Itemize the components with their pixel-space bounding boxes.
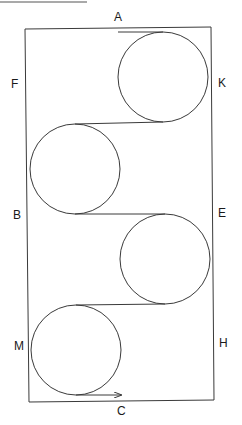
label-k: K: [218, 77, 226, 89]
label-b: B: [13, 209, 21, 221]
pulley-2: [30, 124, 120, 214]
diagram-canvas: [0, 0, 242, 425]
pulley-3: [120, 214, 210, 304]
label-h: H: [219, 337, 228, 349]
pulley-4: [31, 305, 121, 395]
label-e: E: [218, 207, 226, 219]
label-f: F: [11, 78, 18, 90]
label-a: A: [114, 11, 122, 23]
belt-segment-1-2: [75, 122, 163, 124]
pulley-1: [118, 32, 208, 122]
belt-segment-3-4: [76, 304, 165, 305]
label-c: C: [117, 405, 126, 417]
label-m: M: [14, 340, 24, 352]
